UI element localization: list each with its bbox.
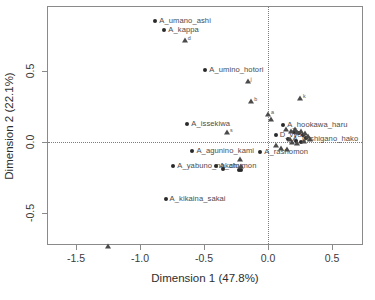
point-label: A_kappa <box>168 24 199 33</box>
x-tick-label: -0.5 <box>195 252 213 264</box>
point-label: k <box>303 93 306 99</box>
circle-marker <box>214 164 218 168</box>
point-label: j <box>251 76 252 82</box>
triangle-marker <box>301 138 307 143</box>
x-tick-mark <box>204 245 205 250</box>
scatter-plot-canvas: A_umano_ashiA_kappaA_umino_hotoriA_issek… <box>0 0 375 300</box>
circle-marker <box>171 164 175 168</box>
triangle-marker <box>273 142 279 147</box>
circle-marker <box>190 149 194 153</box>
triangle-marker <box>307 137 313 142</box>
x-tick-mark <box>332 245 333 250</box>
y-tick-mark <box>42 71 47 72</box>
point-label: b <box>254 96 257 102</box>
y-axis-title: Dimension 2 (22.1%) <box>3 72 15 179</box>
circle-marker <box>164 197 168 201</box>
x-tick-mark <box>76 245 77 250</box>
triangle-marker <box>278 145 284 150</box>
circle-marker <box>258 150 262 154</box>
circle-marker <box>185 122 189 126</box>
point-label: a <box>271 109 274 115</box>
triangle-marker <box>238 164 244 169</box>
point-label: d <box>188 35 191 41</box>
x-tick-label: 0.5 <box>325 252 340 264</box>
triangle-marker <box>284 147 290 152</box>
point-label: A_kikaina_sakai <box>170 193 226 202</box>
triangle-marker <box>237 157 243 162</box>
y-tick-mark <box>42 213 47 214</box>
reference-line-vertical <box>268 7 269 244</box>
x-tick-label: -1.5 <box>67 252 85 264</box>
circle-marker <box>162 28 166 32</box>
y-tick-label: 0.0 <box>24 135 36 150</box>
circle-marker <box>239 168 243 172</box>
triangle-marker <box>105 243 111 248</box>
circle-marker <box>221 167 225 171</box>
circle-marker <box>203 68 207 72</box>
triangle-marker <box>294 141 300 146</box>
y-tick-label: 0.5 <box>24 64 36 79</box>
x-tick-label: 0.0 <box>261 252 276 264</box>
x-axis-title: Dimension 1 (47.8%) <box>151 272 258 284</box>
x-tick-mark <box>140 245 141 250</box>
y-tick-label: -0.5 <box>24 204 36 222</box>
point-label: A_umino_hotori <box>209 64 263 73</box>
circle-marker <box>153 19 157 23</box>
triangle-marker <box>268 117 274 122</box>
x-tick-mark <box>268 245 269 250</box>
circle-marker <box>274 133 278 137</box>
point-label: A_agunino_kami <box>196 145 254 154</box>
x-tick-label: -1.0 <box>131 252 149 264</box>
point-label: s <box>230 127 233 133</box>
point-label: A_issekiwa <box>191 118 230 127</box>
y-tick-mark <box>42 142 47 143</box>
